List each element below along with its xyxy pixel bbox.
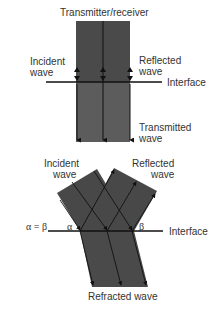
reflected-wave-label-line2: wave: [138, 66, 163, 77]
normal-incidence-diagram: Transmitter/receiver Incident wave Refle…: [29, 7, 206, 144]
incident-wave-label-line1: Incident: [30, 56, 65, 67]
reflected-wave-label-line1: Reflected: [132, 158, 174, 169]
transmitter-receiver-label: Transmitter/receiver: [60, 7, 149, 18]
incident-wave-label-line2: wave: [52, 169, 77, 180]
transmitted-wave-label-line2: wave: [138, 133, 163, 144]
wave-diagram: Transmitter/receiver Incident wave Refle…: [0, 0, 216, 318]
alpha-equals-beta-label: α = β: [26, 221, 47, 232]
reflected-wave-label-line1: Reflected: [139, 55, 181, 66]
interface-label: Interface: [167, 77, 206, 88]
beta-angle-label: β: [139, 221, 144, 232]
incident-wave-label-line1: Incident: [44, 158, 79, 169]
alpha-angle-label: α: [67, 221, 73, 232]
incident-wave-label-line2: wave: [29, 67, 54, 78]
oblique-incidence-diagram: Incident wave Reflected wave α = β α β I…: [26, 158, 208, 302]
interface-label: Interface: [169, 226, 208, 237]
refracted-wave-label: Refracted wave: [88, 291, 158, 302]
transmitted-wave-label-line1: Transmitted: [139, 122, 191, 133]
reflected-wave-label-line2: wave: [150, 169, 175, 180]
